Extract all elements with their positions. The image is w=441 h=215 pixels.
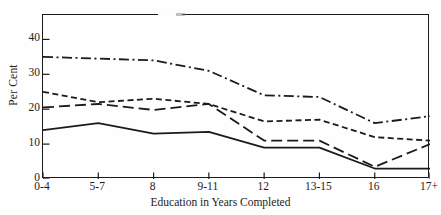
series-line-solid (43, 123, 430, 168)
y-tick-label: 30 (18, 67, 40, 79)
x-tick-label: 0-4 (34, 180, 49, 192)
x-tick-label: 5-7 (90, 180, 105, 192)
plot-area (42, 14, 429, 178)
plot-svg (43, 15, 430, 179)
series-line-dash-dot (43, 57, 430, 123)
x-tick-label: 17+ (420, 180, 438, 192)
x-axis-tick-labels: 0-45-789-111213-151617+ (42, 180, 429, 196)
series-line-short-dash (43, 92, 430, 141)
y-tick-label: 20 (18, 102, 40, 114)
line-chart-figure: Per Cent 010203040 0-45-789-111213-15161… (0, 0, 441, 215)
scan-artifact-smudge (176, 13, 185, 16)
x-tick-label: 8 (150, 180, 156, 192)
x-axis-title: Education in Years Completed (0, 196, 441, 208)
y-tick-label: 40 (18, 32, 40, 44)
x-axis-title-text: Education in Years Completed (151, 196, 291, 208)
x-tick-label: 16 (368, 180, 380, 192)
x-tick-label: 12 (257, 180, 269, 192)
x-tick-label: 9-11 (198, 180, 219, 192)
x-tick-label: 13-15 (305, 180, 332, 192)
y-tick-label: 10 (18, 137, 40, 149)
